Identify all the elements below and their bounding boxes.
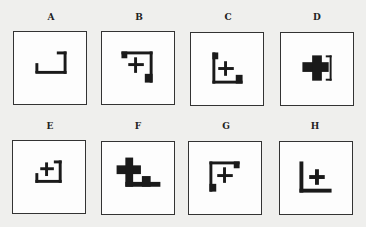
option-label-g: G	[216, 121, 236, 131]
plus-bracket-icon	[13, 141, 85, 213]
plus-bracket-icon	[189, 142, 261, 214]
option-label-c: C	[218, 12, 238, 22]
option-g[interactable]	[188, 141, 262, 215]
option-label-a: A	[41, 12, 61, 22]
plus-l-shape-icon	[191, 33, 263, 105]
option-label-d: D	[307, 12, 327, 22]
corner-bracket-icon	[14, 32, 86, 104]
option-f[interactable]	[101, 141, 175, 215]
option-label-b: B	[129, 12, 149, 22]
option-label-e: E	[40, 121, 60, 131]
plus-bracket-icon	[102, 32, 174, 104]
bold-cross-bracket-icon	[281, 33, 353, 105]
option-h[interactable]	[279, 141, 353, 215]
option-c[interactable]	[190, 32, 264, 106]
option-label-h: H	[305, 121, 325, 131]
bold-cross-step-icon	[102, 142, 174, 214]
option-e[interactable]	[12, 140, 86, 214]
option-label-f: F	[128, 121, 148, 131]
option-d[interactable]	[280, 32, 354, 106]
option-b[interactable]	[101, 31, 175, 105]
option-a[interactable]	[13, 31, 87, 105]
plus-l-shape-icon	[280, 142, 352, 214]
